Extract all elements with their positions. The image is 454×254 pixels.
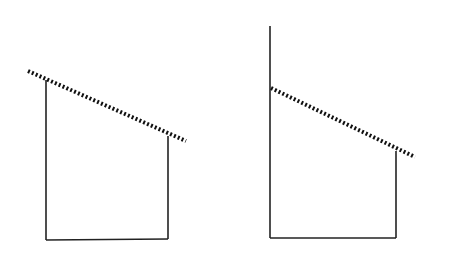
right-figure (270, 26, 415, 238)
sloped-dashed-line (271, 88, 415, 157)
diagram-canvas (0, 0, 454, 254)
left-figure (28, 71, 186, 240)
sloped-dashed-line (28, 71, 186, 141)
base-line (46, 239, 168, 240)
